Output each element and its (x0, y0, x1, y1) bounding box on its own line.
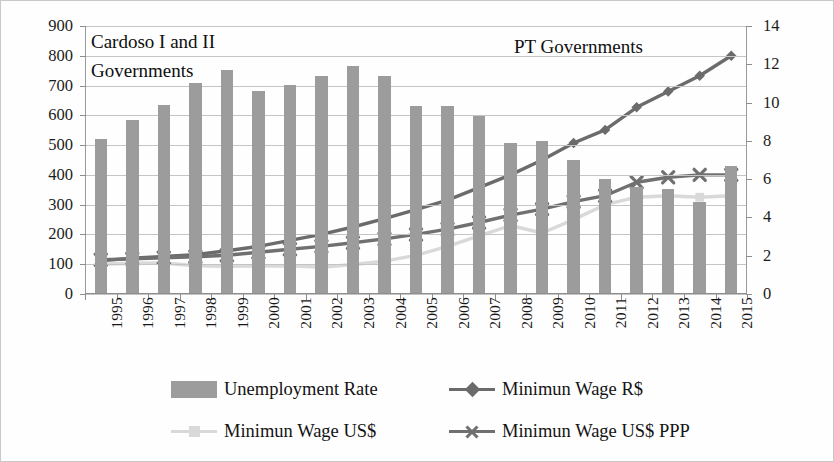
bar (630, 187, 643, 294)
legend-item[interactable]: Minimun Wage R$ (449, 379, 643, 400)
bar (599, 179, 612, 294)
y-axis-left-tick (80, 175, 86, 176)
y-axis-left-tick-label: 600 (19, 105, 73, 125)
x-axis-tick-label: 2006 (455, 297, 473, 329)
y-axis-left-tick (80, 264, 86, 265)
x-axis-tick-label: 2003 (360, 297, 378, 329)
gridline (85, 294, 747, 295)
annotation-pt-governments: PT Governments (514, 36, 643, 58)
y-axis-left-tick (80, 234, 86, 235)
y-axis-left-tick-label: 900 (19, 16, 73, 36)
legend-swatch-diamond-line (449, 382, 495, 397)
legend-swatch-cross-line (449, 424, 495, 439)
y-axis-right-tick (746, 141, 752, 142)
chart-figure: 0100200300400500600700800900 02468101214… (0, 0, 834, 462)
chart-legend: Unemployment RateMinimun Wage R$Minimun … (1, 373, 834, 455)
x-axis-tick-label: 2012 (644, 297, 662, 329)
bar (284, 85, 297, 294)
x-axis-tick-label: 1995 (108, 297, 126, 329)
x-axis-tick-label: 2013 (675, 297, 693, 329)
legend-label: Unemployment Rate (224, 379, 378, 400)
x-axis-tick-label: 2015 (738, 297, 756, 329)
y-axis-left-tick-label: 400 (19, 165, 73, 185)
y-axis-left-tick-label: 300 (19, 195, 73, 215)
y-axis-right-tick (746, 103, 752, 104)
gridline (85, 86, 747, 87)
x-axis-tick-label: 2008 (518, 297, 536, 329)
y-axis-right-tick-label: 0 (763, 284, 803, 304)
y-axis-right-tick-label: 10 (763, 93, 803, 113)
y-axis-left-tick (80, 205, 86, 206)
y-axis-right-tick (746, 64, 752, 65)
bar (504, 143, 517, 294)
annotation-cardoso-line2: Governments (91, 60, 193, 82)
bar (315, 76, 328, 294)
x-axis-tick-label: 1998 (202, 297, 220, 329)
x-axis-tick-label: 2007 (486, 297, 504, 329)
x-axis-tick-label: 1999 (234, 297, 252, 329)
legend-label: Minimun Wage US$ PPP (502, 421, 690, 442)
x-axis-tick-label: 2011 (612, 297, 630, 328)
gridline (85, 26, 747, 27)
y-axis-left-tick-label: 700 (19, 76, 73, 96)
x-axis-tick-label: 2000 (265, 297, 283, 329)
legend-marker-cross (465, 425, 479, 439)
x-axis-tick-label: 2010 (581, 297, 599, 329)
y-axis-right-tick-label: 14 (763, 16, 803, 36)
y-axis-left-tick-label: 800 (19, 46, 73, 66)
bar (441, 106, 454, 294)
y-axis-left-tick (80, 86, 86, 87)
bar (252, 91, 265, 294)
x-axis-tick-label: 2014 (707, 297, 725, 329)
y-axis-right-tick-label: 8 (763, 131, 803, 151)
bar (693, 202, 706, 294)
x-axis-tick-label: 2005 (423, 297, 441, 329)
y-axis-left-tick-label: 100 (19, 254, 73, 274)
bar (567, 160, 580, 294)
y-axis-right-tick (746, 256, 752, 257)
annotation-cardoso-line1: Cardoso I and II (91, 31, 215, 53)
y-axis-left (85, 26, 86, 294)
bar (95, 139, 108, 294)
y-axis-left-tick-label: 200 (19, 224, 73, 244)
y-axis-right-tick (746, 179, 752, 180)
legend-item[interactable]: Unemployment Rate (171, 379, 378, 400)
bar (536, 141, 549, 294)
legend-item[interactable]: Minimun Wage US$ (171, 421, 376, 442)
x-axis-tick-label: 2009 (549, 297, 567, 329)
y-axis-left-tick (80, 56, 86, 57)
x-axis-tick-label: 1997 (171, 297, 189, 329)
x-axis-tick-label: 2004 (392, 297, 410, 329)
legend-marker-diamond (464, 382, 480, 398)
legend-swatch-square-line (171, 424, 217, 439)
y-axis-left-tick-label: 500 (19, 135, 73, 155)
bar (410, 106, 423, 294)
legend-item[interactable]: Minimun Wage US$ PPP (449, 421, 690, 442)
bar (473, 116, 486, 294)
bar (662, 189, 675, 294)
x-axis (85, 293, 747, 294)
legend-swatch-bar-swatch (171, 381, 217, 398)
y-axis-right-tick-label: 4 (763, 207, 803, 227)
x-axis-tick-label: 2002 (328, 297, 346, 329)
y-axis-right-tick-label: 6 (763, 169, 803, 189)
y-axis-right-tick-label: 2 (763, 246, 803, 266)
bar (725, 166, 738, 294)
x-axis-labels: 1995199619971998199920002001200220032004… (85, 297, 747, 365)
bar (347, 66, 360, 294)
y-axis-right-tick (746, 26, 752, 27)
y-axis-left-tick (80, 145, 86, 146)
bar (221, 70, 234, 294)
marker-square (695, 193, 704, 202)
bar (189, 83, 202, 294)
y-axis-right-tick (746, 217, 752, 218)
x-axis-tick-label: 1996 (139, 297, 157, 329)
bar (378, 76, 391, 294)
y-axis-right (746, 26, 747, 294)
y-axis-left-tick (80, 26, 86, 27)
y-axis-left-tick (80, 115, 86, 116)
legend-label: Minimun Wage R$ (502, 379, 643, 400)
legend-label: Minimun Wage US$ (224, 421, 376, 442)
bar (158, 105, 171, 295)
bar (126, 120, 139, 294)
